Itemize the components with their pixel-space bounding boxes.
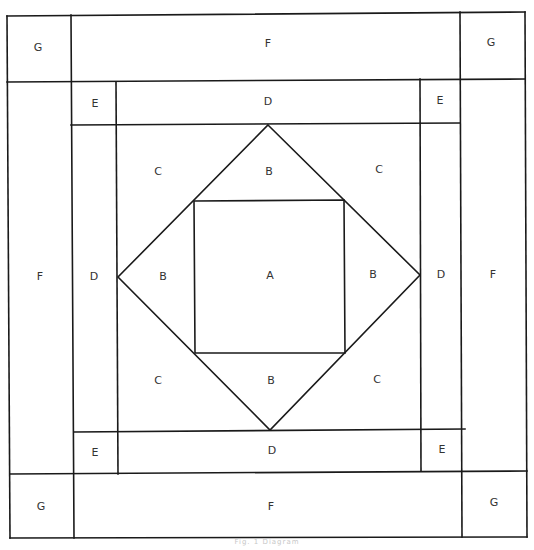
label-f-left: F [37, 270, 43, 283]
label-c-top-left: C [154, 165, 162, 178]
label-d-left: D [90, 270, 98, 283]
label-b-top: B [265, 165, 273, 178]
label-c-bottom-right: C [373, 373, 381, 386]
label-e-bottom-left: E [92, 446, 99, 459]
label-e-top-left: E [92, 97, 99, 110]
label-e-bottom-right: E [439, 443, 446, 456]
label-d-top: D [264, 95, 272, 108]
label-a-center: A [266, 269, 274, 282]
quilt-block-diagram: G F G E D E C B C F D B A B D F C B C E … [0, 0, 534, 550]
label-c-bottom-left: C [154, 374, 162, 387]
label-g-bottom-left: G [37, 500, 46, 513]
label-f-top: F [265, 37, 271, 50]
piece-labels: G F G E D E C B C F D B A B D F C B C E … [34, 36, 499, 513]
label-g-bottom-right: G [490, 496, 499, 509]
label-g-top-right: G [487, 36, 496, 49]
label-e-top-right: E [437, 94, 444, 107]
label-f-bottom: F [268, 500, 274, 513]
label-d-bottom: D [268, 444, 276, 457]
label-c-top-right: C [375, 163, 383, 176]
label-g-top-left: G [34, 41, 43, 54]
label-f-right: F [490, 268, 496, 281]
label-b-left: B [159, 270, 167, 283]
label-b-right: B [369, 268, 377, 281]
label-d-right: D [437, 268, 445, 281]
label-b-bottom: B [267, 374, 275, 387]
figure-caption: Fig. 1 Diagram [0, 538, 534, 546]
